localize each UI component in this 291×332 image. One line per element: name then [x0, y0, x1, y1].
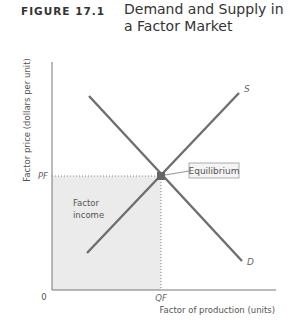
factor-income-label-line1: Factor: [73, 198, 100, 208]
supply-label: S: [244, 84, 250, 94]
qf-tick-label: QF: [155, 293, 167, 303]
pf-tick-label: PF: [38, 171, 48, 181]
y-axis-title: Factor price (dollars per unit): [22, 58, 32, 182]
x-axis-title: Factor of production (units): [160, 305, 276, 315]
equilibrium-label: Equilibrium: [189, 166, 240, 176]
demand-label: D: [247, 257, 254, 267]
equilibrium-point: [157, 172, 165, 180]
factor-income-label-line2: income: [73, 210, 104, 220]
origin-label: 0: [41, 292, 46, 302]
chart: Equilibrium S D Factor income PF QF 0 Fa…: [0, 0, 291, 332]
equilibrium-leader-line: [165, 171, 189, 175]
